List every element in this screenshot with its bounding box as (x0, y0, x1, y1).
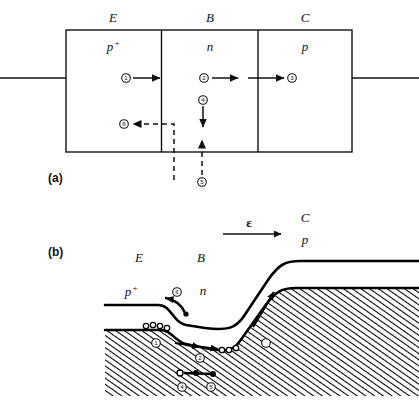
panel-b-marker-4: 4 (178, 383, 187, 392)
transistor-figure-svg: E B C p + n p 1 2 3 4 (0, 0, 419, 409)
back-injection-carrier-dot (183, 311, 188, 316)
panel-b-marker-6: 6 (173, 288, 182, 297)
panel-a-base-region-label: B (206, 10, 214, 25)
panel-a-marker-5: 5 (198, 178, 207, 187)
panel-b-emitter-region-label: E (134, 250, 143, 265)
panel-a-collector-region-label: C (301, 10, 310, 25)
panel-a-marker-4: 4 (199, 96, 208, 105)
panel-b-marker-5: 5 (207, 383, 216, 392)
panel-b-marker-2-label: 2 (198, 354, 202, 361)
panel-b-marker-3: 3 (262, 339, 271, 348)
panel-b-marker-3-label: 3 (264, 339, 268, 346)
panel-a-emitter-doping-letter: p (106, 39, 114, 54)
electric-field-symbol: ε (246, 215, 252, 230)
panel-b-collector-doping-label: p (301, 232, 309, 247)
panel-a-collector-doping-label: p (301, 39, 309, 54)
panel-b-marker-1: 1 (152, 339, 161, 348)
panel-b-emitter-doping-letter: p (124, 284, 132, 299)
panel-b-collector-region-label: C (301, 210, 310, 225)
panel-a-marker-1: 1 (122, 74, 131, 83)
panel-a-marker-4-label: 4 (201, 96, 205, 103)
panel-b-marker-5-label: 5 (209, 383, 213, 390)
panel-b-marker-4-label: 4 (180, 383, 184, 390)
panel-a-caption-label: (a) (48, 171, 63, 185)
panel-a-marker-3-label: 3 (290, 74, 294, 81)
panel-b-base-doping-label: n (200, 283, 207, 298)
panel-a-marker-6: 6 (120, 120, 129, 129)
panel-a-marker-3: 3 (288, 74, 297, 83)
panel-a-emitter-region-label: E (108, 10, 117, 25)
panel-b-caption-label: (b) (48, 245, 63, 259)
panel-b-marker-1-label: 1 (154, 339, 158, 346)
panel-b-marker-2: 2 (196, 354, 205, 363)
panel-a-marker-1-label: 1 (124, 74, 128, 81)
panel-a-marker-2-label: 2 (202, 74, 206, 81)
panel-a-marker-2: 2 (200, 74, 209, 83)
panel-b-base-region-label: B (197, 250, 205, 265)
panel-a-emitter-doping-superscript: + (114, 38, 120, 48)
panel-a-marker-5-label: 5 (200, 178, 204, 185)
panel-b-emitter-doping-superscript: + (132, 283, 138, 293)
figure-container: E B C p + n p 1 2 3 4 (0, 0, 419, 409)
panel-a-base-doping-label: n (207, 39, 214, 54)
panel-b-marker-6-label: 6 (175, 288, 179, 295)
panel-a-marker-6-label: 6 (122, 120, 126, 127)
